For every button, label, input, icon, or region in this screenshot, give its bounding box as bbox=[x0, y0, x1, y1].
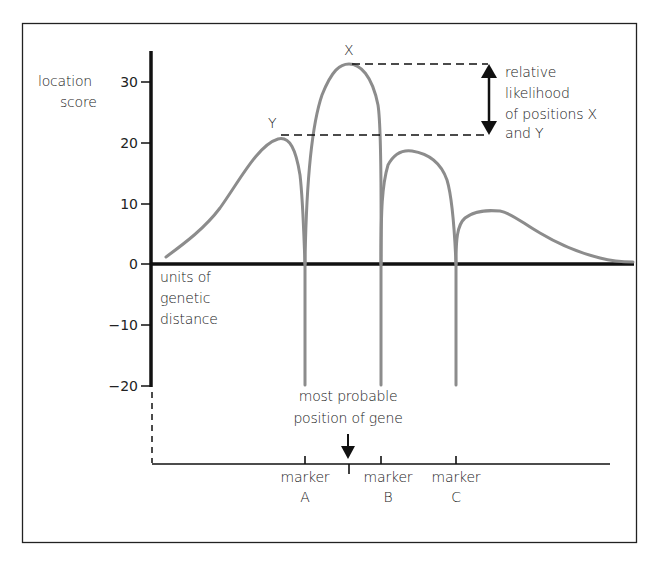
x-axis-label-line3: distance bbox=[160, 311, 218, 328]
arrow-down-icon bbox=[341, 434, 355, 459]
y-axis-label-line1: location bbox=[38, 73, 92, 90]
annotation-line3: of positions X bbox=[505, 106, 597, 123]
peak-y-label: Y bbox=[268, 115, 276, 132]
x-axis-label-line1: units of bbox=[160, 269, 211, 286]
y-axis-label-line2: score bbox=[60, 94, 97, 111]
peak-x-label: X bbox=[344, 42, 353, 59]
marker-a-word: marker bbox=[270, 469, 340, 486]
annotation-line1: relative bbox=[505, 64, 556, 81]
y-tick-30: 30 bbox=[88, 74, 138, 90]
gene-label-line1: most probable bbox=[268, 388, 428, 405]
y-tick-minus10: −10 bbox=[88, 317, 138, 333]
gene-label-line2: position of gene bbox=[268, 410, 428, 427]
marker-c-letter: C bbox=[421, 489, 491, 506]
marker-b-letter: B bbox=[353, 489, 423, 506]
annotation-line2: likelihood bbox=[505, 85, 570, 102]
annotation-line4: and Y bbox=[505, 125, 543, 142]
y-tick-0: 0 bbox=[88, 256, 138, 272]
x-axis-label-line2: genetic bbox=[160, 290, 210, 307]
marker-b-word: marker bbox=[353, 469, 423, 486]
marker-c-word: marker bbox=[421, 469, 491, 486]
marker-a-letter: A bbox=[270, 489, 340, 506]
y-tick-10: 10 bbox=[88, 196, 138, 212]
y-tick-minus20: −20 bbox=[88, 378, 138, 394]
y-tick-20: 20 bbox=[88, 135, 138, 151]
double-arrow-icon bbox=[481, 64, 497, 135]
